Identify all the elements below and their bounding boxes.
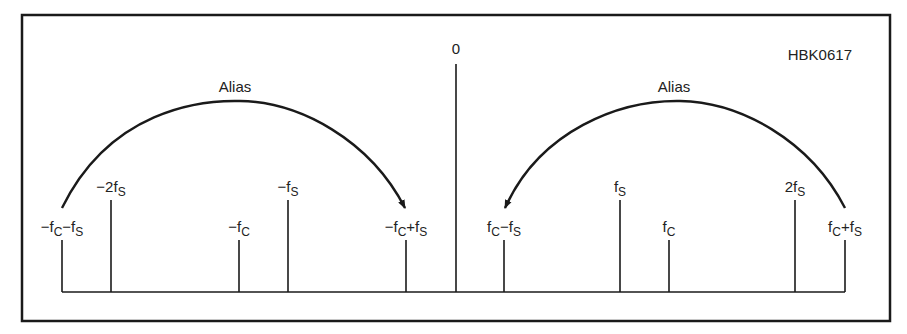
aliasing-spectrum-diagram: Alias Alias HBK0617 0 −2fS −fS fS 2fS −f…: [0, 0, 907, 334]
alias-label-left: Alias: [219, 78, 252, 95]
zero-label: 0: [452, 40, 460, 57]
figure-id-label: HBK0617: [788, 46, 852, 63]
alias-label-right: Alias: [658, 78, 691, 95]
